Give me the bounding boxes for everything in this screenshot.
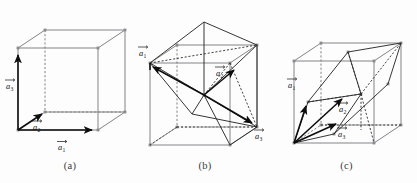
vector-a3-label: a — [255, 132, 259, 141]
vector-a2-subscript: 2 — [344, 109, 347, 115]
cube-back-face — [45, 30, 125, 112]
vector-label-a3: a 3 — [337, 127, 347, 140]
panel-c-caption: (c) — [276, 160, 417, 171]
panel-b-caption: (b) — [130, 160, 280, 171]
vector-a1-subscript: 1 — [63, 147, 66, 153]
vector-label-a2: a 2 — [32, 120, 42, 133]
vector-a3-label: a — [6, 82, 10, 91]
vector-a2-label: a — [339, 105, 343, 114]
vector-a1-subscript: 1 — [144, 53, 147, 59]
lattice-primitive-vectors-figure: a 1 a 2 a 3 (a) — [0, 0, 417, 183]
cube-front-face — [18, 48, 98, 130]
primitive-cell-hidden-edges — [308, 43, 401, 143]
vector-label-a2: a 2 — [215, 66, 225, 79]
vector-label-a3: a 3 — [254, 129, 264, 142]
vector-a2-label: a — [33, 123, 37, 132]
vector-label-a1: a 1 — [287, 78, 297, 91]
vector-a2-label: a — [216, 69, 220, 78]
vector-a1-subscript: 1 — [293, 85, 296, 91]
vector-label-a1: a 1 — [57, 140, 67, 153]
vector-a3-subscript: 3 — [11, 86, 14, 92]
panel-face-centered-cubic: a 1 a 2 a 3 (c) — [276, 0, 417, 183]
cube-depth-edges — [18, 30, 125, 130]
vector-label-a3: a 3 — [5, 79, 15, 92]
vector-a1-arrow — [153, 67, 204, 95]
vector-label-a2: a 2 — [338, 102, 348, 115]
vector-a2-subscript: 2 — [221, 73, 224, 79]
vector-a1-label: a — [139, 49, 143, 58]
panel-simple-cubic: a 1 a 2 a 3 (a) — [0, 0, 140, 183]
panel-body-centered-cubic: a 1 a 2 a 3 (b) — [130, 0, 280, 183]
vector-a3-subscript: 3 — [260, 136, 263, 142]
vector-a2-subscript: 2 — [38, 127, 41, 133]
panel-a-caption: (a) — [0, 160, 140, 171]
panel-c-canvas: a 1 a 2 a 3 — [276, 0, 417, 160]
vector-a3-arrow — [294, 124, 336, 143]
vector-a3-label: a — [338, 130, 342, 139]
cube-front-face — [294, 61, 374, 143]
vector-a1-label: a — [288, 81, 292, 90]
panel-b-canvas: a 1 a 2 a 3 — [130, 0, 280, 160]
vector-a3-subscript: 3 — [343, 134, 346, 140]
lattice-points — [17, 29, 127, 132]
panel-a-canvas: a 1 a 2 a 3 — [0, 0, 140, 160]
vector-a1-label: a — [58, 143, 62, 152]
vector-label-a1: a 1 — [138, 46, 148, 59]
